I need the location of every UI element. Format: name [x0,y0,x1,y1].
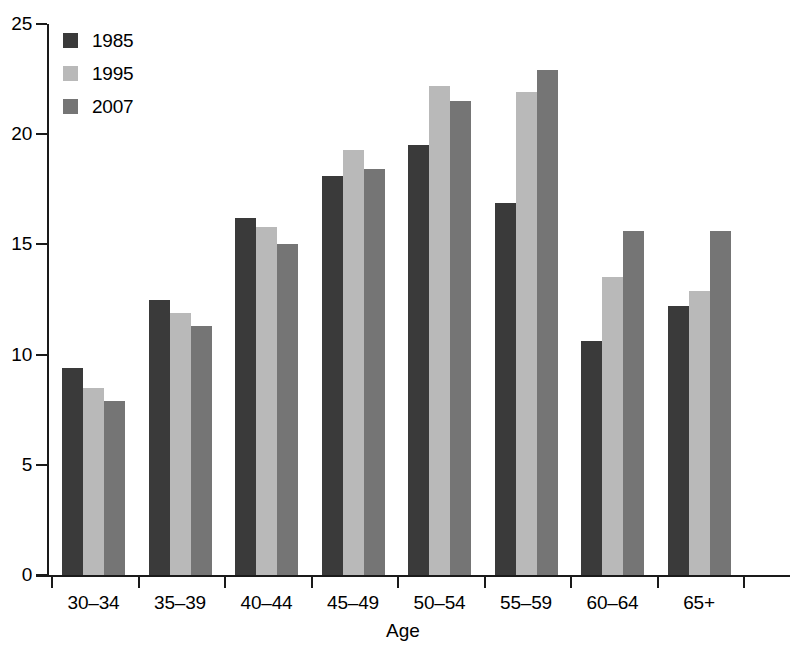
y-axis-tick-label: 5 [0,455,32,474]
bar-group [235,24,298,575]
legend-item: 1985 [63,24,133,57]
bar-group [668,24,731,575]
bar [256,227,277,575]
legend-item-label: 1985 [92,31,133,50]
bar [429,86,450,575]
y-axis-tick-label: 0 [0,565,32,584]
bar [322,176,343,575]
legend-item: 1995 [63,57,133,90]
bar [668,306,689,575]
x-axis-tick [138,577,140,588]
y-axis-tick-label: 25 [0,14,32,33]
bar [450,101,471,575]
legend-item-label: 2007 [92,97,133,116]
bar [170,313,191,575]
bar [364,169,385,575]
bar [710,231,731,575]
bar [537,70,558,575]
bar [191,326,212,575]
bar [623,231,644,575]
x-axis-tick [224,577,226,588]
bars-layer [49,24,790,575]
bar [343,150,364,575]
y-axis-tick [36,243,47,245]
bar-group [581,24,644,575]
bar [495,203,516,575]
legend: 198519952007 [63,24,133,123]
bar [602,277,623,575]
y-axis-tick [36,354,47,356]
bar-group [495,24,558,575]
bar [408,145,429,575]
x-axis-tick [311,577,313,588]
bar [83,388,104,575]
bar-group [322,24,385,575]
x-axis-tick [484,577,486,588]
legend-swatch-icon [63,66,78,81]
bar [104,401,125,575]
x-axis-tick [397,577,399,588]
y-axis-tick [36,574,47,576]
legend-swatch-icon [63,99,78,114]
y-axis-tick-label: 20 [0,124,32,143]
bar [235,218,256,575]
x-axis-tick [743,577,745,588]
legend-item-label: 1995 [92,64,133,83]
y-axis-tick-label: 15 [0,234,32,253]
bar-chart: 0510152025 30–3435–3940–4445–4950–5455–5… [0,0,806,655]
bar [277,244,298,575]
x-axis-line [36,575,790,577]
y-axis-tick [36,133,47,135]
legend-swatch-icon [63,33,78,48]
bar [149,300,170,576]
x-axis-tick [570,577,572,588]
x-axis-tick-label: 65+ [644,592,754,614]
x-axis-tick [51,577,53,588]
bar-group [408,24,471,575]
x-axis-title: Age [0,620,806,642]
bar [689,291,710,575]
y-axis-tick [36,464,47,466]
bar [516,92,537,575]
bar [581,341,602,575]
y-axis-tick-label: 10 [0,345,32,364]
x-axis-tick [657,577,659,588]
bar-group [149,24,212,575]
y-axis-tick [36,23,47,25]
legend-item: 2007 [63,90,133,123]
bar [62,368,83,575]
